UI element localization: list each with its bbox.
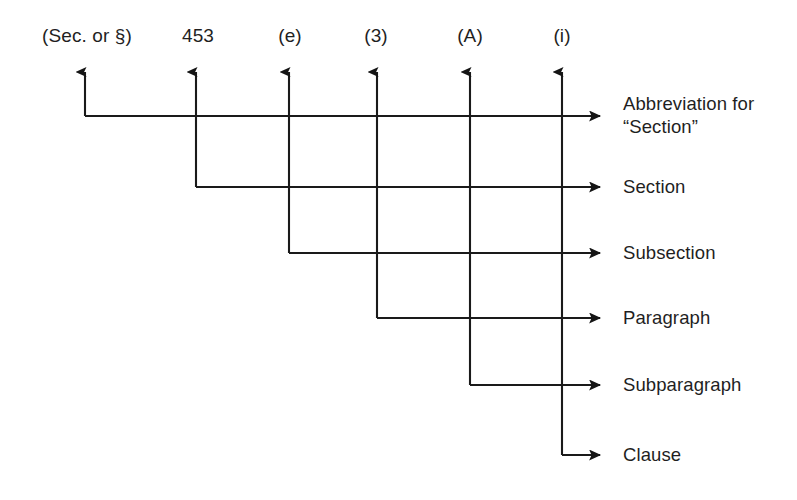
citation-structure-diagram: (Sec. or §)453(e)(3)(A)(i) Abbreviation … (0, 0, 797, 500)
level-label-line: Subsection (623, 241, 716, 264)
level-label-line: Abbreviation for (623, 92, 754, 115)
level-label-line: “Section” (623, 115, 754, 138)
level-label-clause: Clause (623, 443, 681, 466)
level-label-section: Section (623, 175, 685, 198)
citation-token-clause: (i) (553, 26, 570, 45)
citation-token-section: 453 (182, 26, 214, 45)
citation-token-paragraph: (3) (364, 26, 388, 45)
connectors-group (85, 72, 600, 455)
level-label-paragraph: Paragraph (623, 306, 710, 329)
citation-token-subsection: (e) (278, 26, 302, 45)
level-label-line: Clause (623, 443, 681, 466)
level-label-subsection: Subsection (623, 241, 716, 264)
level-label-line: Subparagraph (623, 373, 741, 396)
level-label-line: Section (623, 175, 685, 198)
citation-token-abbreviation: (Sec. or §) (42, 26, 132, 45)
level-label-subparagraph: Subparagraph (623, 373, 741, 396)
citation-token-subparagraph: (A) (457, 26, 483, 45)
level-label-line: Paragraph (623, 306, 710, 329)
level-label-abbreviation: Abbreviation for“Section” (623, 92, 754, 138)
